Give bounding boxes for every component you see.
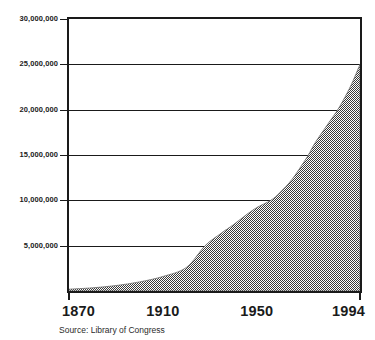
chart-title (0, 0, 375, 1)
x-axis-label: 1950 (240, 303, 273, 319)
x-axis-tick (359, 293, 361, 300)
y-axis-label: 30,000,000 (19, 14, 58, 23)
y-axis-tick (60, 110, 67, 111)
y-axis-label: 25,000,000 (19, 59, 58, 68)
y-axis-tick (60, 155, 67, 156)
x-axis-tick (68, 293, 70, 300)
area-series (69, 19, 360, 291)
x-axis-label: 1870 (62, 303, 95, 319)
x-axis-label: 1994 (332, 303, 365, 319)
y-axis-label: 15,000,000 (19, 150, 58, 159)
y-axis-tick (60, 200, 67, 201)
y-axis-tick (60, 64, 67, 65)
y-axis-tick (60, 19, 67, 20)
y-axis-label: 20,000,000 (19, 105, 58, 114)
source-note: Source: Library of Congress (59, 325, 165, 335)
x-axis-label: 1910 (146, 303, 179, 319)
plot-area (67, 17, 362, 293)
y-axis-label: 5,000,000 (24, 241, 58, 250)
chart-container: 30,000,00025,000,00020,000,00015,000,000… (0, 0, 375, 340)
plot-inner (69, 19, 360, 291)
y-axis-label: 10,000,000 (19, 195, 58, 204)
y-axis-tick (60, 246, 67, 247)
